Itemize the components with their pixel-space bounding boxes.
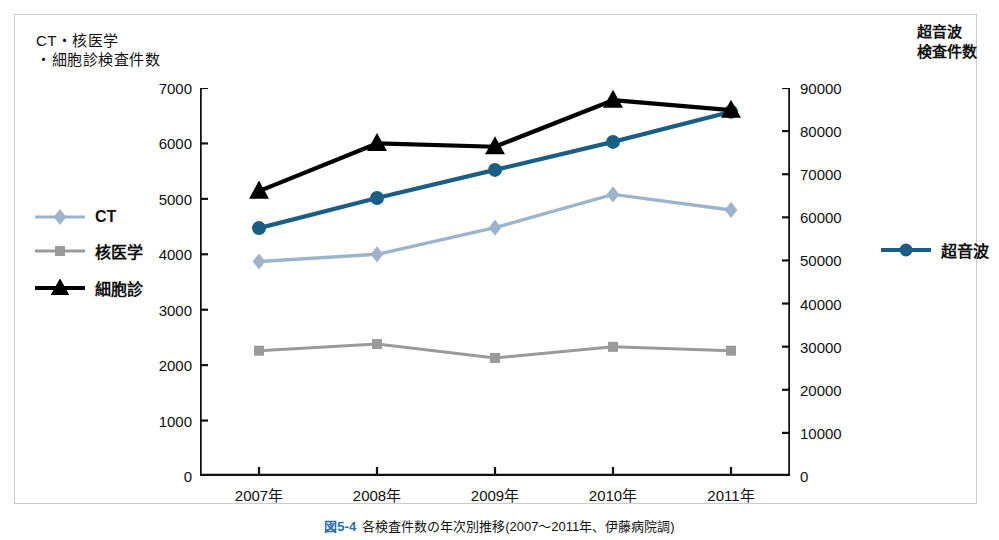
diamond-icon	[34, 208, 86, 226]
line-chart-svg	[200, 88, 790, 476]
left-tick-label: 0	[184, 468, 192, 485]
circle-marker	[370, 191, 384, 205]
right-tick-label: 80000	[800, 123, 842, 140]
series-CT	[253, 186, 738, 269]
triangle-icon	[34, 279, 86, 297]
right-axis-tick-labels: 9000080000700006000050000400003000020000…	[800, 88, 890, 476]
diamond-marker	[607, 186, 620, 202]
circle-marker	[606, 135, 620, 149]
legend-item-核医学: 核医学	[34, 239, 143, 263]
chart-page: CT・核医学 ・細胞診検査件数 超音波 検査件数 700060005000400…	[0, 0, 999, 540]
legend-label: 核医学	[95, 239, 143, 263]
series-核医学	[254, 339, 736, 363]
right-tick-label: 40000	[800, 295, 842, 312]
legend-left: CT核医学細胞診	[34, 208, 143, 300]
left-axis-title: CT・核医学 ・細胞診検査件数	[36, 32, 160, 70]
left-tick-label: 6000	[159, 135, 192, 152]
x-tick-label: 2010年	[589, 484, 637, 505]
legend-label: 細胞診	[95, 276, 143, 300]
figure-caption-text: 各検査件数の年次別推移(2007〜2011年、伊藤病院調)	[362, 519, 675, 534]
square-marker	[490, 353, 500, 363]
x-tick-label: 2007年	[235, 484, 283, 505]
plot-area	[200, 88, 790, 476]
diamond-marker	[253, 253, 266, 269]
right-axis-title: 超音波 検査件数	[917, 22, 977, 61]
legend-label: 超音波	[941, 238, 989, 262]
circle-marker	[252, 221, 266, 235]
left-tick-label: 2000	[159, 357, 192, 374]
right-tick-label: 30000	[800, 338, 842, 355]
left-tick-label: 4000	[159, 246, 192, 263]
circle-icon	[880, 241, 932, 259]
x-tick-label: 2008年	[353, 484, 401, 505]
legend-label: CT	[95, 208, 116, 226]
right-tick-label: 10000	[800, 424, 842, 441]
left-tick-label: 7000	[159, 80, 192, 97]
figure-number: 図5-4	[324, 519, 356, 534]
square-marker	[254, 346, 264, 356]
right-tick-label: 90000	[800, 80, 842, 97]
figure-caption: 図5-4各検査件数の年次別推移(2007〜2011年、伊藤病院調)	[0, 516, 999, 540]
circle-marker	[488, 163, 502, 177]
right-tick-label: 0	[800, 468, 808, 485]
diamond-marker	[489, 220, 502, 236]
left-tick-label: 3000	[159, 301, 192, 318]
legend-right: 超音波	[880, 238, 989, 262]
right-tick-label: 50000	[800, 252, 842, 269]
x-tick-label: 2011年	[707, 484, 754, 505]
left-tick-label: 5000	[159, 190, 192, 207]
right-tick-label: 60000	[800, 209, 842, 226]
diamond-marker	[54, 209, 67, 225]
right-tick-label: 70000	[800, 166, 842, 183]
diamond-marker	[725, 202, 738, 218]
circle-marker	[900, 244, 913, 257]
series-超音波	[252, 105, 738, 235]
diamond-marker	[371, 246, 384, 262]
square-marker	[608, 342, 618, 352]
legend-item-CT: CT	[34, 208, 143, 226]
square-marker	[55, 246, 65, 256]
square-icon	[34, 242, 86, 260]
square-marker	[372, 339, 382, 349]
series-細胞診	[249, 90, 741, 199]
right-tick-label: 20000	[800, 381, 842, 398]
left-tick-label: 1000	[159, 412, 192, 429]
square-marker	[726, 346, 736, 356]
legend-item-細胞診: 細胞診	[34, 276, 143, 300]
x-tick-label: 2009年	[471, 484, 519, 505]
x-axis-tick-labels: 2007年2008年2009年2010年2011年	[200, 482, 790, 506]
